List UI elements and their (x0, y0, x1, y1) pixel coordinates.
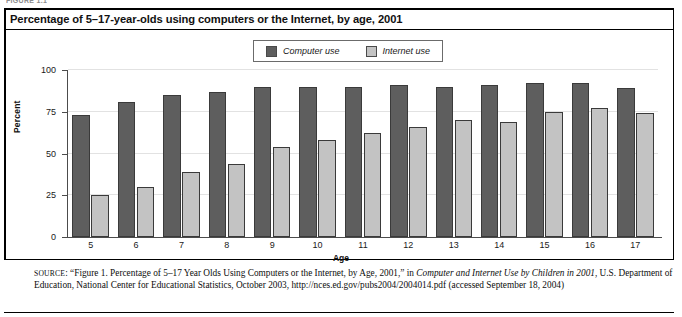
legend-swatch-computer-use (266, 46, 277, 57)
x-tick-label-15: 15 (525, 240, 565, 250)
y-tick-label-75: 75 (10, 107, 56, 117)
bar-computer-use-age-17 (617, 88, 635, 237)
bar-internet-use-age-14 (500, 122, 518, 237)
bottom-divider (4, 312, 674, 313)
bar-group-age-16 (567, 70, 612, 237)
source-prefix: : “Figure 1. Percentage of 5–17 Year Old… (65, 268, 416, 278)
legend-label-internet-use: Internet use (383, 46, 431, 56)
bar-internet-use-age-15 (545, 112, 563, 237)
bar-computer-use-age-15 (526, 83, 544, 237)
bar-computer-use-age-9 (254, 87, 272, 237)
x-tick-label-13: 13 (434, 240, 474, 250)
bar-computer-use-age-12 (390, 85, 408, 237)
x-tick-label-8: 8 (207, 240, 247, 250)
x-tick-label-5: 5 (71, 240, 111, 250)
x-tick-label-12: 12 (388, 240, 428, 250)
figure-title: Percentage of 5–17-year-olds using compu… (10, 13, 402, 25)
bar-internet-use-age-8 (228, 164, 246, 237)
plot-area (68, 70, 658, 237)
source-italic-title: Computer and Internet Use by Children in… (416, 268, 595, 278)
legend-item-internet-use: Internet use (366, 46, 431, 57)
bar-group-age-14 (476, 70, 521, 237)
bar-group-age-5 (68, 70, 113, 237)
x-tick-label-11: 11 (343, 240, 383, 250)
bar-computer-use-age-11 (345, 87, 363, 237)
x-tick-label-16: 16 (570, 240, 610, 250)
bar-computer-use-age-6 (118, 102, 136, 237)
bar-group-age-10 (295, 70, 340, 237)
source-label: SOURCE (34, 269, 65, 278)
bar-group-age-9 (250, 70, 295, 237)
bar-group-age-15 (522, 70, 567, 237)
y-tick-label-50: 50 (10, 149, 56, 159)
bar-internet-use-age-5 (91, 195, 109, 237)
bar-group-age-6 (113, 70, 158, 237)
legend-label-computer-use: Computer use (283, 46, 340, 56)
title-divider (4, 29, 674, 30)
x-tick-label-10: 10 (298, 240, 338, 250)
figure-page: FIGURE 1.1 Percentage of 5–17-year-olds … (0, 0, 682, 317)
bar-computer-use-age-16 (572, 83, 590, 237)
bar-internet-use-age-10 (318, 140, 336, 237)
bar-internet-use-age-7 (182, 172, 200, 237)
x-tick-label-7: 7 (161, 240, 201, 250)
cropped-figure-label: FIGURE 1.1 (6, 0, 47, 4)
x-tick-label-6: 6 (116, 240, 156, 250)
bar-computer-use-age-14 (481, 85, 499, 237)
source-note: SOURCE: “Figure 1. Percentage of 5–17 Ye… (34, 268, 674, 291)
bar-internet-use-age-13 (455, 120, 473, 237)
x-axis-line (62, 237, 662, 238)
bar-group-age-11 (340, 70, 385, 237)
bar-computer-use-age-5 (72, 115, 90, 237)
bar-group-age-7 (159, 70, 204, 237)
bar-internet-use-age-12 (409, 127, 427, 237)
bar-group-age-17 (613, 70, 658, 237)
bar-computer-use-age-10 (299, 87, 317, 237)
x-tick-label-14: 14 (479, 240, 519, 250)
bar-group-age-12 (386, 70, 431, 237)
bar-group-age-8 (204, 70, 249, 237)
bar-group-age-13 (431, 70, 476, 237)
chart-legend: Computer use Internet use (253, 40, 443, 62)
legend-item-computer-use: Computer use (266, 46, 340, 57)
y-tick-label-0: 0 (10, 232, 56, 242)
bar-computer-use-age-7 (163, 95, 181, 237)
bar-internet-use-age-16 (591, 108, 609, 237)
bar-computer-use-age-8 (209, 92, 227, 237)
legend-swatch-internet-use (366, 46, 377, 57)
bar-internet-use-age-11 (364, 133, 382, 237)
x-tick-label-17: 17 (615, 240, 655, 250)
x-tick-label-9: 9 (252, 240, 292, 250)
bar-internet-use-age-6 (137, 187, 155, 237)
x-axis-label: Age (0, 253, 682, 263)
bar-computer-use-age-13 (436, 87, 454, 237)
y-tick-label-25: 25 (10, 190, 56, 200)
y-tick-label-100: 100 (10, 65, 56, 75)
bar-internet-use-age-17 (636, 113, 654, 237)
bar-internet-use-age-9 (273, 147, 291, 237)
